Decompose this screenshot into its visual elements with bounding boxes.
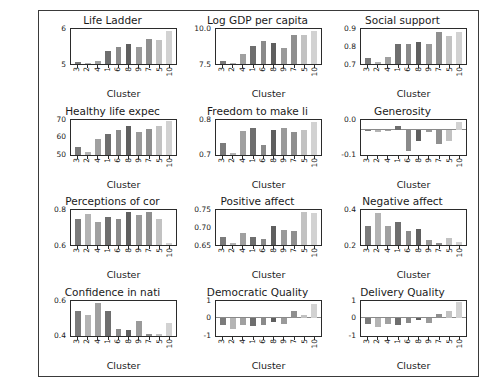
x-tick-labels: 32416897510 [215, 67, 322, 89]
x-tick-label: 8 [413, 339, 423, 361]
x-tick-label: 4 [238, 339, 248, 361]
y-tick-label: 60 [56, 133, 69, 141]
y-tick-label: 0.4 [344, 206, 359, 214]
bar [311, 31, 317, 64]
bar [126, 212, 132, 245]
bar-slot [93, 210, 103, 245]
x-tick-label: 3 [362, 67, 372, 89]
y-tick-label: 0 [351, 314, 359, 322]
bar-series [216, 120, 321, 155]
x-axis-label: Cluster [215, 270, 322, 280]
x-tick-label: 6 [258, 339, 268, 361]
bar [395, 126, 401, 130]
bar-series [71, 29, 176, 64]
x-tick-labels: 32416897510 [360, 339, 467, 361]
bar [250, 237, 256, 245]
bar-series [216, 210, 321, 245]
bar [220, 237, 226, 245]
x-tick-label: 9 [279, 67, 289, 89]
x-tick-label-text: 4 [94, 67, 102, 72]
axes-frame [215, 209, 322, 246]
bar-slot [238, 301, 248, 336]
x-tick-label: 3 [362, 158, 372, 180]
x-tick-label: 9 [134, 67, 144, 89]
x-tick-label-text: 2 [83, 248, 91, 253]
bar [250, 128, 256, 155]
x-tick-label: 4 [93, 339, 103, 361]
x-tick-label: 7 [144, 339, 154, 361]
x-tick-label-text: 4 [239, 67, 247, 72]
x-tick-label-text: 9 [280, 158, 288, 163]
x-tick-label-text: 5 [156, 339, 164, 344]
x-tick-label-text: 10 [311, 158, 319, 168]
y-tick-label: 0.2 [344, 242, 359, 250]
x-tick-label: 7 [289, 158, 299, 180]
x-tick-label-text: 10 [311, 67, 319, 77]
bar-slot [268, 120, 278, 155]
bar-slot [248, 29, 258, 64]
x-tick-label-text: 7 [145, 67, 153, 72]
x-tick-label-text: 10 [456, 339, 464, 349]
y-tick-labels: 65 [40, 25, 69, 68]
bar [375, 62, 381, 64]
bar [416, 130, 422, 141]
x-tick-label-text: 5 [301, 339, 309, 344]
x-tick-label: 10 [310, 339, 320, 361]
x-tick-label: 3 [217, 67, 227, 89]
bar-slot [289, 301, 299, 336]
bar [95, 222, 101, 245]
x-tick-label: 5 [444, 248, 454, 270]
x-tick-label: 5 [444, 158, 454, 180]
x-tick-label-text: 5 [156, 158, 164, 163]
bar-slot [373, 210, 383, 245]
bar [156, 126, 162, 154]
bar-slot [228, 210, 238, 245]
bar-slot [123, 120, 133, 155]
x-tick-label-text: 7 [290, 339, 298, 344]
x-axis-label: Cluster [360, 361, 467, 371]
bar-slot [279, 210, 289, 245]
bar-slot [218, 120, 228, 155]
bar-slot [299, 301, 309, 336]
bar-slot [309, 120, 319, 155]
x-tick-label-text: 9 [135, 248, 143, 253]
bar-slot [164, 29, 174, 64]
bar [75, 311, 81, 335]
bar [456, 242, 462, 245]
x-tick-label-text: 4 [94, 158, 102, 163]
bar-slot [134, 29, 144, 64]
bar [446, 238, 452, 245]
bar [365, 226, 371, 245]
bar [166, 31, 172, 64]
bar [220, 318, 226, 325]
x-tick-labels: 32416897510 [70, 67, 177, 89]
bar [116, 47, 122, 65]
subplot: Positive affect0.750.700.6532416897510Cl… [185, 195, 330, 286]
x-tick-label: 5 [444, 67, 454, 89]
bar-slot [413, 120, 423, 155]
axes-frame [215, 119, 322, 156]
x-tick-label: 8 [123, 67, 133, 89]
plot-area: 10-1 [215, 300, 322, 337]
axes-frame [360, 300, 467, 337]
x-tick-label-text: 2 [228, 248, 236, 253]
subplot: Negative affect0.40.232416897510Cluster [330, 195, 475, 286]
x-tick-labels: 32416897510 [70, 158, 177, 180]
bar-slot [238, 120, 248, 155]
x-tick-label: 3 [217, 158, 227, 180]
bar [416, 42, 422, 64]
bar [436, 32, 442, 64]
x-tick-label-text: 4 [94, 339, 102, 344]
bar [75, 62, 81, 64]
bar [301, 35, 307, 64]
bar [385, 226, 391, 245]
bar [156, 334, 162, 336]
bar-slot [134, 210, 144, 245]
x-tick-label-text: 6 [259, 248, 267, 253]
bar-slot [268, 210, 278, 245]
x-tick-label: 4 [93, 158, 103, 180]
y-tick-label: 0.70 [194, 224, 214, 232]
bar-slot [134, 120, 144, 155]
bar [271, 43, 277, 64]
bar-slot [363, 120, 373, 155]
